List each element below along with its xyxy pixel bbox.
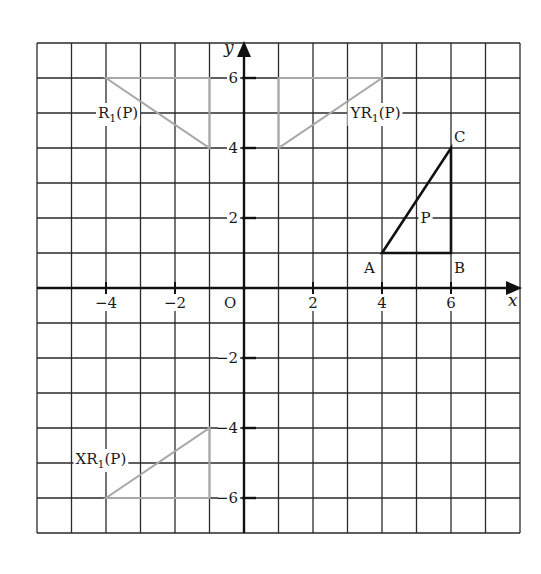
coordinate-grid-figure: −4−2246642−2−4−6 x y O R1(P)YR1(P)XR1(P)…: [0, 0, 541, 574]
origin-label: O: [224, 294, 236, 312]
svg-text:P: P: [421, 209, 431, 227]
vertex-label-b: B: [454, 259, 465, 277]
y-tick-label: −2: [216, 349, 238, 367]
label-p: P: [419, 208, 433, 228]
x-tick-label: 4: [377, 294, 387, 312]
y-tick-label: 4: [228, 139, 238, 157]
vertex-label-a: A: [363, 259, 375, 277]
svg-text:R1(P): R1(P): [98, 104, 138, 125]
x-tick-label: 6: [446, 294, 456, 312]
label-r1p: R1(P): [96, 103, 140, 126]
vertex-label-c: C: [454, 128, 465, 146]
label-yr1p: YR1(P): [348, 103, 403, 126]
y-tick-label: 2: [228, 209, 238, 227]
x-tick-label: 2: [308, 294, 318, 312]
x-axis-label: x: [508, 290, 518, 310]
y-tick-label: 6: [228, 69, 238, 87]
y-tick-label: −6: [216, 489, 238, 507]
y-axis-label: y: [223, 37, 234, 57]
x-tick-label: −2: [164, 294, 186, 312]
x-tick-label: −4: [95, 294, 117, 312]
y-tick-label: −4: [216, 419, 238, 437]
label-xr1p: XR1(P): [74, 449, 129, 472]
